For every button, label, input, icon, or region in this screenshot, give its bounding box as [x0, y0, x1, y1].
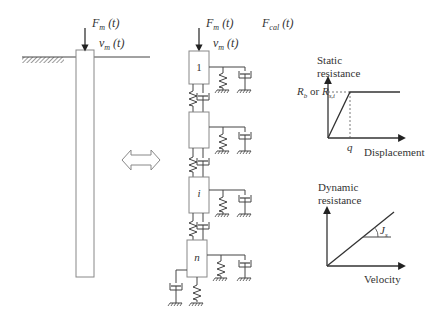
static-x-tick-q: q — [347, 141, 353, 153]
dynamic-title-line1: Dynamic — [318, 181, 358, 193]
link-i-n — [189, 213, 209, 240]
static-x-label: Displacement — [364, 146, 424, 158]
link-2-i — [189, 148, 209, 177]
mass-block — [189, 112, 209, 148]
dynamic-resistance-line — [327, 212, 394, 266]
pile-velocity-label: vm (t) — [99, 36, 124, 52]
equivalence-double-arrow-icon — [122, 150, 160, 170]
slope-angle-arc-icon — [376, 229, 379, 238]
pile-figure: Fm (t) vm (t) — [22, 16, 150, 277]
static-y-label: Rb or Rs,i — [296, 85, 335, 100]
pile-body — [76, 50, 94, 277]
static-resistance-chart: Static resistance Rb or Rs,i q Displacem… — [296, 54, 424, 158]
calc-force-label: Fcal (t) — [261, 16, 293, 32]
pile-model-diagram: Fm (t) vm (t) Fm (t) vm (t) Fcal (t) 1 — [0, 0, 443, 320]
lumped-mass-model: Fm (t) vm (t) Fcal (t) 1 — [168, 16, 293, 306]
segment-n: n — [168, 240, 251, 306]
soil-hatch — [22, 57, 64, 63]
segment-label: n — [194, 251, 200, 263]
segment-1: 1 — [189, 51, 251, 93]
static-resistance-curve — [328, 92, 400, 138]
pile-force-label: Fm (t) — [91, 16, 119, 32]
segment-label: i — [197, 187, 200, 199]
dynamic-resistance-chart: Dynamic resistance Js Velocity — [318, 181, 402, 285]
segment-i: i — [189, 177, 251, 217]
static-title-line2: resistance — [317, 67, 360, 79]
segment-label: 1 — [196, 61, 202, 73]
link-1-2 — [189, 84, 209, 112]
static-title-line1: Static — [317, 54, 342, 66]
model-force-label: Fm (t) — [205, 16, 233, 32]
dynamic-x-label: Velocity — [364, 273, 401, 285]
segment-2 — [189, 112, 251, 154]
model-velocity-label: vm (t) — [213, 36, 238, 52]
dynamic-title-line2: resistance — [318, 194, 361, 206]
